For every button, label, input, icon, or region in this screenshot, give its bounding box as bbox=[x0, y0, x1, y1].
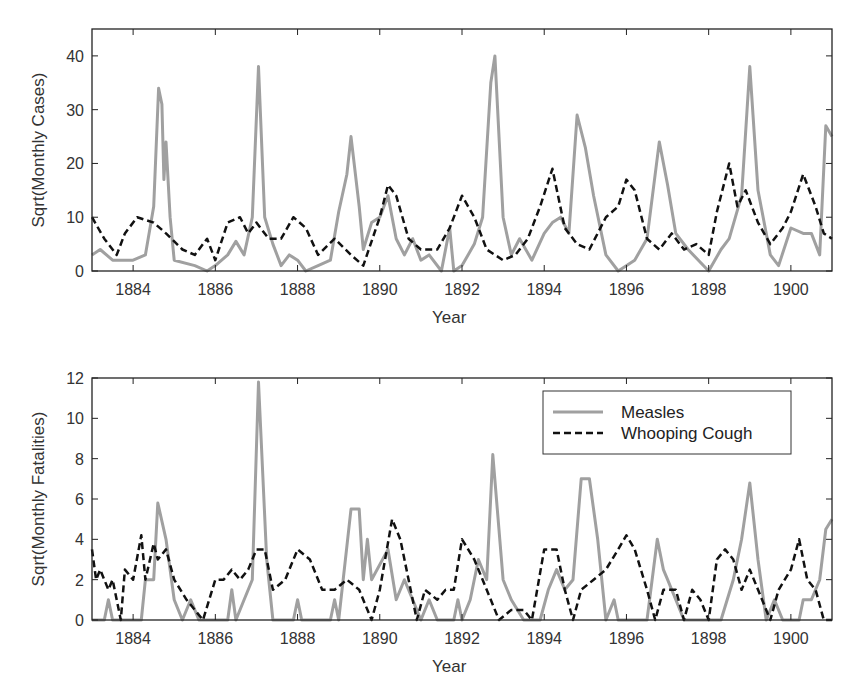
cases-series-group bbox=[92, 56, 832, 271]
y-tick-label: 10 bbox=[66, 209, 84, 226]
x-tick-label: 1886 bbox=[198, 281, 234, 298]
x-tick-label: 1898 bbox=[691, 630, 727, 647]
x-tick-label: 1900 bbox=[773, 630, 809, 647]
x-tick-label: 1894 bbox=[526, 630, 562, 647]
legend-whooping-label: Whooping Cough bbox=[621, 424, 752, 443]
x-tick-label: 1892 bbox=[444, 630, 480, 647]
y-tick-label: 4 bbox=[75, 531, 84, 548]
cases-measles-line bbox=[92, 56, 832, 271]
legend-measles-label: Measles bbox=[621, 403, 684, 422]
legend-box bbox=[543, 391, 791, 454]
x-tick-label: 1884 bbox=[115, 630, 151, 647]
x-tick-label: 1894 bbox=[526, 281, 562, 298]
y-tick-label: 6 bbox=[75, 491, 84, 508]
x-tick-label: 1888 bbox=[280, 630, 316, 647]
y-tick-label: 12 bbox=[66, 370, 84, 387]
x-tick-label: 1884 bbox=[115, 281, 151, 298]
y-tick-label: 20 bbox=[66, 155, 84, 172]
x-tick-label: 1886 bbox=[198, 630, 234, 647]
x-tick-label: 1890 bbox=[362, 630, 398, 647]
x-tick-label: 1892 bbox=[444, 281, 480, 298]
cases-plot-frame bbox=[92, 29, 832, 271]
x-tick-label: 1898 bbox=[691, 281, 727, 298]
y-tick-label: 2 bbox=[75, 572, 84, 589]
x-tick-label: 1896 bbox=[609, 281, 645, 298]
fatalities-y-axis-title: Sqrt(Monthly Fatalities) bbox=[29, 412, 48, 587]
fatalities-x-axis-title: Year bbox=[432, 657, 467, 676]
y-tick-label: 0 bbox=[75, 263, 84, 280]
fatalities-chart: 1884188618881890189218941896189819000246… bbox=[29, 370, 832, 676]
y-tick-label: 0 bbox=[75, 612, 84, 629]
y-tick-label: 30 bbox=[66, 102, 84, 119]
cases-chart: 1884188618881890189218941896189819000102… bbox=[29, 29, 832, 327]
y-tick-label: 8 bbox=[75, 451, 84, 468]
y-tick-label: 10 bbox=[66, 410, 84, 427]
y-tick-label: 40 bbox=[66, 48, 84, 65]
figure: 1884188618881890189218941896189819000102… bbox=[0, 0, 860, 699]
x-tick-label: 1888 bbox=[280, 281, 316, 298]
fatalities-whooping-cough-line bbox=[92, 519, 832, 620]
x-tick-label: 1896 bbox=[609, 630, 645, 647]
cases-x-axis-title: Year bbox=[432, 308, 467, 327]
legend: Measles Whooping Cough bbox=[543, 391, 791, 454]
x-tick-label: 1900 bbox=[773, 281, 809, 298]
x-tick-label: 1890 bbox=[362, 281, 398, 298]
cases-y-axis-title: Sqrt(Monthly Cases) bbox=[29, 73, 48, 228]
